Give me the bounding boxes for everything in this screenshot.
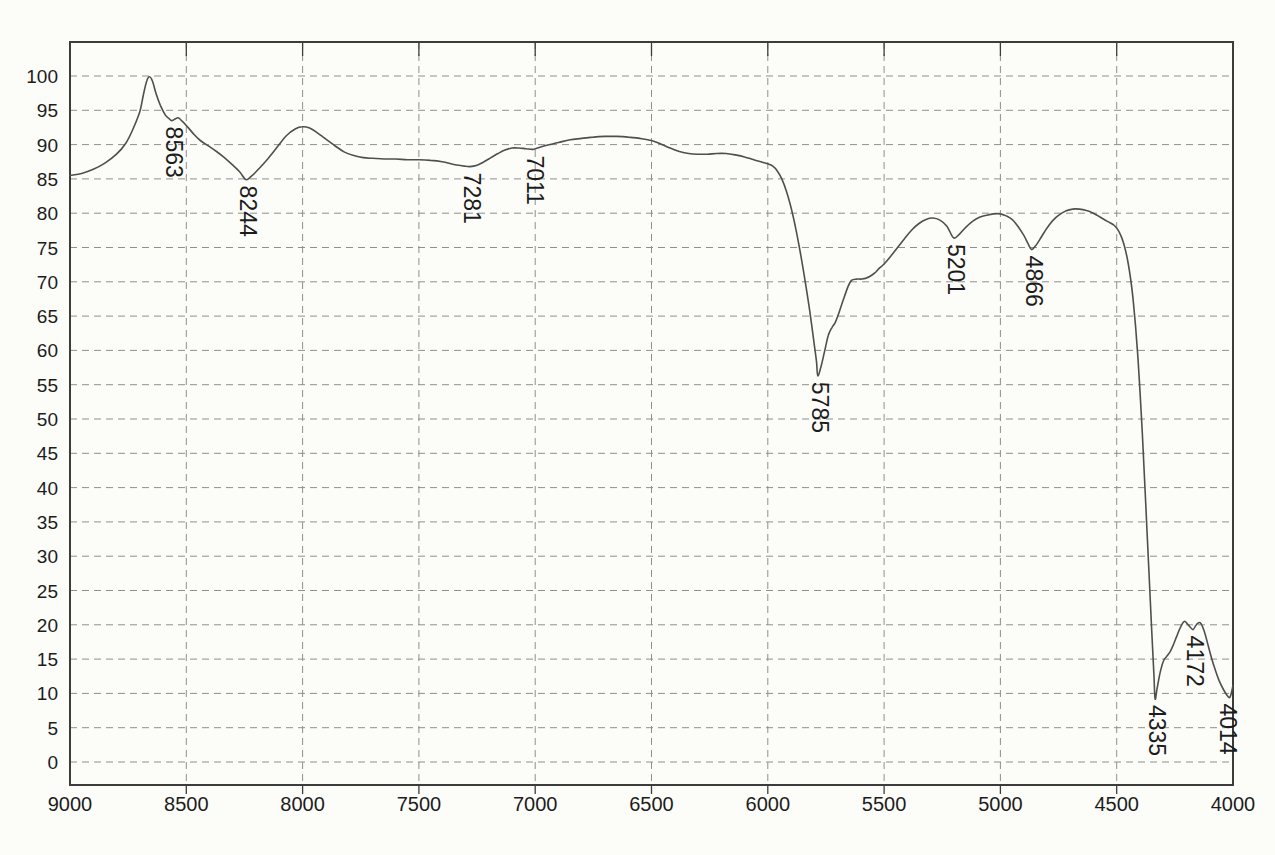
- y-tick-label: 80: [37, 203, 58, 224]
- y-tick-label: 10: [37, 683, 58, 704]
- y-tick-label: 20: [37, 615, 58, 636]
- y-tick-label: 75: [37, 238, 58, 259]
- peak-label: 4335: [1144, 705, 1170, 756]
- peak-label: 4172: [1182, 636, 1208, 687]
- y-tick-label: 70: [37, 272, 58, 293]
- y-tick-label: 25: [37, 581, 58, 602]
- y-tick-label: 100: [26, 66, 58, 87]
- y-tick-label: 60: [37, 340, 58, 361]
- spectrum-plot: 0510152025303540455055606570758085909510…: [0, 0, 1275, 855]
- x-tick-label: 4000: [1211, 793, 1256, 815]
- plot-background: [0, 0, 1275, 855]
- y-tick-label: 40: [37, 478, 58, 499]
- y-tick-label: 55: [37, 375, 58, 396]
- x-tick-label: 6000: [746, 793, 791, 815]
- y-tick-label: 45: [37, 443, 58, 464]
- y-tick-label: 35: [37, 512, 58, 533]
- y-tick-label: 5: [47, 718, 58, 739]
- peak-label: 8563: [161, 127, 187, 178]
- y-tick-label: 95: [37, 100, 58, 121]
- y-tick-label: 65: [37, 306, 58, 327]
- peak-label: 4866: [1021, 256, 1047, 307]
- x-tick-label: 6500: [629, 793, 674, 815]
- y-tick-label: 30: [37, 546, 58, 567]
- y-tick-label: 90: [37, 135, 58, 156]
- x-tick-label: 5500: [862, 793, 907, 815]
- y-tick-label: 15: [37, 649, 58, 670]
- peak-label: 7281: [459, 173, 485, 224]
- peak-label: 8244: [235, 186, 261, 237]
- peak-label: 4014: [1215, 704, 1241, 755]
- peak-label: 5785: [807, 382, 833, 433]
- nir-spectrum-chart: 0510152025303540455055606570758085909510…: [0, 0, 1275, 855]
- x-tick-label: 8500: [164, 793, 209, 815]
- y-tick-label: 85: [37, 169, 58, 190]
- y-tick-label: 0: [47, 752, 58, 773]
- peak-label: 7011: [522, 155, 548, 204]
- x-tick-label: 9000: [48, 793, 93, 815]
- x-tick-label: 7500: [397, 793, 442, 815]
- x-tick-label: 5000: [978, 793, 1023, 815]
- y-tick-label: 50: [37, 409, 58, 430]
- x-tick-label: 4500: [1094, 793, 1139, 815]
- x-tick-label: 8000: [280, 793, 325, 815]
- x-tick-label: 7000: [513, 793, 558, 815]
- peak-label: 5201: [943, 244, 969, 295]
